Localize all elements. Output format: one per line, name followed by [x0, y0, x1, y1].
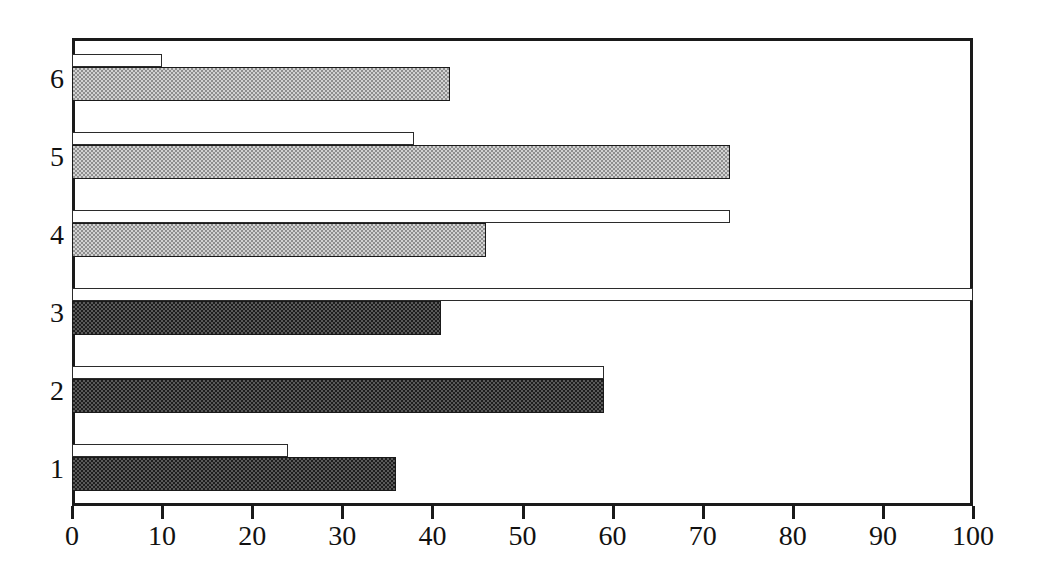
x-tick-60 [612, 506, 615, 519]
bar-fill-2 [72, 379, 604, 413]
bar-chart: 654321 0102030405060708090100 [0, 0, 1045, 582]
y-tick-label-6: 6 [30, 65, 64, 93]
x-tick-label-80: 80 [779, 521, 807, 551]
x-axis-ticks [72, 506, 973, 520]
y-axis-labels: 654321 [20, 38, 64, 506]
x-tick-label-0: 0 [65, 521, 79, 551]
x-tick-label-20: 20 [238, 521, 266, 551]
x-tick-0 [71, 506, 74, 519]
bar-outline-5 [72, 132, 414, 145]
bar-outline-3 [72, 288, 973, 301]
x-tick-40 [431, 506, 434, 519]
x-tick-10 [161, 506, 164, 519]
x-tick-100 [972, 506, 975, 519]
bar-fill-5 [72, 145, 730, 179]
bar-outline-4 [72, 210, 730, 223]
x-tick-label-70: 70 [689, 521, 717, 551]
x-tick-label-40: 40 [418, 521, 446, 551]
x-tick-30 [341, 506, 344, 519]
plot-area [72, 38, 973, 506]
x-tick-label-10: 10 [148, 521, 176, 551]
y-tick-label-4: 4 [30, 221, 64, 249]
bar-fill-6 [72, 67, 450, 101]
x-tick-20 [251, 506, 254, 519]
x-tick-50 [522, 506, 525, 519]
y-tick-label-2: 2 [30, 377, 64, 405]
x-tick-label-30: 30 [328, 521, 356, 551]
bar-fill-3 [72, 301, 441, 335]
bar-fill-1 [72, 457, 396, 491]
x-tick-90 [882, 506, 885, 519]
x-tick-label-90: 90 [869, 521, 897, 551]
y-tick-label-3: 3 [30, 299, 64, 327]
x-tick-70 [702, 506, 705, 519]
x-tick-label-60: 60 [599, 521, 627, 551]
bar-outline-2 [72, 366, 604, 379]
bar-outline-6 [72, 54, 162, 67]
bar-fill-4 [72, 223, 486, 257]
x-tick-label-100: 100 [952, 521, 994, 551]
x-tick-80 [792, 506, 795, 519]
y-tick-label-1: 1 [30, 455, 64, 483]
x-axis-tick-labels: 0102030405060708090100 [72, 521, 973, 561]
y-tick-label-5: 5 [30, 143, 64, 171]
bar-outline-1 [72, 444, 288, 457]
x-tick-label-50: 50 [509, 521, 537, 551]
